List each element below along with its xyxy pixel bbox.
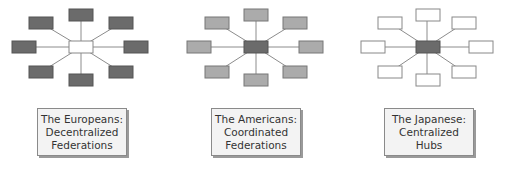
diagram-europeans	[0, 0, 170, 95]
subsidiary-node	[299, 41, 323, 53]
subsidiary-node	[12, 41, 36, 53]
hub-spoke-network	[0, 0, 170, 95]
subsidiary-node	[187, 41, 211, 53]
label-line: Decentralized	[46, 126, 119, 139]
label-line: Coordinated	[224, 126, 288, 139]
label-line: The Americans:	[215, 113, 297, 126]
headquarters-hub	[244, 41, 268, 53]
label-line: Centralized	[399, 126, 459, 139]
label-line: The Europeans:	[41, 113, 123, 126]
subsidiary-node	[469, 41, 493, 53]
diagram-americans	[176, 0, 346, 95]
subsidiary-node	[416, 74, 440, 86]
subsidiary-node	[29, 66, 53, 78]
label-line: Federations	[51, 139, 112, 152]
label-europeans: The Europeans: Decentralized Federations	[37, 108, 127, 156]
subsidiary-node	[109, 17, 133, 29]
diagram-japanese	[340, 0, 505, 95]
hub-spoke-network	[176, 0, 346, 95]
label-line: The Japanese:	[392, 113, 466, 126]
subsidiary-node	[69, 74, 93, 86]
label-line: Hubs	[416, 139, 443, 152]
subsidiary-node	[205, 17, 229, 29]
subsidiary-node	[244, 74, 268, 86]
subsidiary-node	[378, 17, 402, 29]
subsidiary-node	[205, 66, 229, 78]
subsidiary-node	[109, 66, 133, 78]
subsidiary-node	[452, 66, 476, 78]
subsidiary-node	[244, 9, 268, 21]
subsidiary-node	[283, 66, 307, 78]
subsidiary-node	[124, 41, 148, 53]
subsidiary-node	[283, 17, 307, 29]
subsidiary-node	[378, 66, 402, 78]
label-line: Federations	[225, 139, 286, 152]
subsidiary-node	[452, 17, 476, 29]
subsidiary-node	[29, 17, 53, 29]
subsidiary-node	[361, 41, 385, 53]
hub-spoke-network	[340, 0, 505, 95]
label-americans: The Americans: Coordinated Federations	[211, 108, 301, 156]
headquarters-hub	[69, 41, 93, 53]
label-japanese: The Japanese: Centralized Hubs	[384, 108, 474, 156]
subsidiary-node	[416, 9, 440, 21]
headquarters-hub	[416, 41, 440, 53]
subsidiary-node	[69, 9, 93, 21]
